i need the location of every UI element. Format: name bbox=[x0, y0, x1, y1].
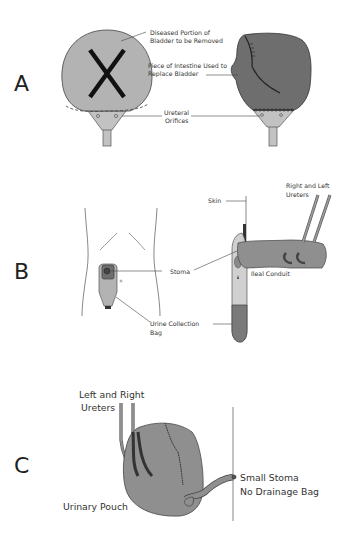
label-urine-collection-bag: Urine Collection bbox=[150, 320, 199, 327]
label-urine-collection-bag-2: Bag bbox=[150, 329, 162, 337]
bag-leader-line bbox=[116, 297, 150, 322]
panel-c-letter: C bbox=[14, 453, 29, 478]
label-ureteral-orifices-2: Orifices bbox=[165, 117, 188, 124]
stoma-leader-line-2 bbox=[194, 251, 237, 270]
label-urinary-pouch: Urinary Pouch bbox=[63, 501, 128, 512]
label-no-drainage-bag: No Drainage Bag bbox=[240, 486, 319, 497]
torso-illustration bbox=[82, 208, 160, 316]
label-intestine: Piece of Intestine Used to bbox=[148, 62, 227, 69]
panel-a-letter: A bbox=[14, 71, 29, 96]
small-stoma-icon bbox=[232, 475, 236, 479]
intestine-replacement-illustration bbox=[231, 33, 311, 146]
diseased-bladder-illustration bbox=[62, 30, 152, 146]
label-small-stoma: Small Stoma bbox=[240, 472, 299, 483]
label-diseased-portion-2: Bladder to be Removed bbox=[150, 37, 223, 44]
label-stoma: Stoma bbox=[170, 268, 190, 275]
label-right-left-ureters: Right and Left bbox=[286, 182, 330, 190]
label-skin: Skin bbox=[208, 197, 221, 204]
label-diseased-portion: Diseased Portion of bbox=[150, 29, 211, 36]
panel-a: A bbox=[14, 29, 311, 146]
label-left-right-ureters: Left and Right bbox=[79, 389, 145, 400]
stoma-icon bbox=[104, 268, 110, 274]
label-ileal-conduit: Ileal Conduit bbox=[251, 270, 290, 277]
panel-b: B bbox=[14, 182, 330, 342]
ileal-conduit-illustration bbox=[232, 195, 330, 342]
label-left-right-ureters-2: Ureters bbox=[81, 402, 115, 413]
panel-c: C Left and Right Ureters Small Stoma No … bbox=[14, 389, 319, 521]
panel-b-letter: B bbox=[14, 259, 29, 284]
label-ureteral-orifices: Ureteral bbox=[164, 109, 189, 116]
label-intestine-2: Replace Bladder bbox=[148, 70, 199, 78]
label-right-left-ureters-2: Ureters bbox=[286, 191, 309, 198]
urinary-diversion-diagram: A bbox=[0, 0, 354, 541]
urinary-pouch-illustration bbox=[121, 403, 236, 516]
